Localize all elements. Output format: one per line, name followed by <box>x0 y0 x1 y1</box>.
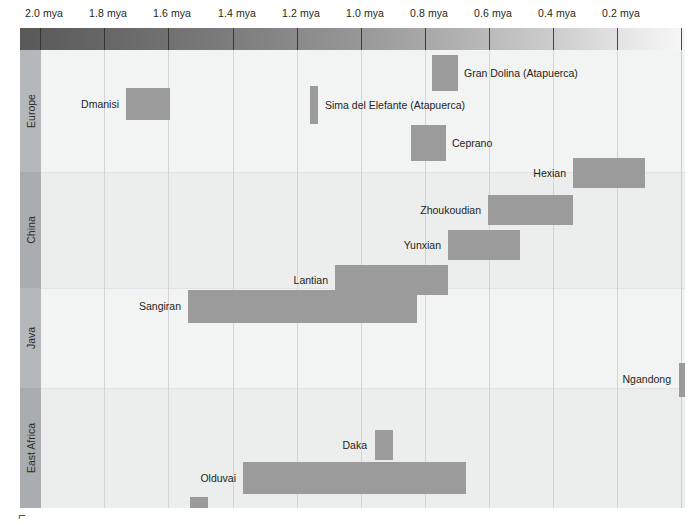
bar-label-lantian: Lantian <box>294 275 328 286</box>
gradient-tick-1-2 <box>297 28 298 50</box>
bar-gran-dolina[interactable] <box>432 55 458 91</box>
bar-sima-del-elefante[interactable] <box>310 86 318 124</box>
bar-label-dmanisi: Dmanisi <box>81 99 119 110</box>
bar-label-gran-dolina: Gran Dolina (Atapuerca) <box>464 68 578 79</box>
figure-corner-mark: ⌐ <box>18 508 58 522</box>
region-gutter-europe: Europe <box>20 50 41 172</box>
region-label-china: China <box>25 216 37 243</box>
bar-yunxian[interactable] <box>448 230 520 260</box>
gridline-0-6 <box>489 50 490 508</box>
gradient-tick-1-4 <box>233 28 234 50</box>
gradient-tick-1-0 <box>361 28 362 50</box>
bar-hexian[interactable] <box>573 158 645 188</box>
time-axis-labels: 2.0 mya 1.8 mya 1.6 mya 1.4 mya 1.2 mya … <box>0 0 696 28</box>
axis-tick-label-1-0: 1.0 mya <box>346 7 384 19</box>
gradient-tick-1-8 <box>104 28 105 50</box>
gradient-tick-0-6 <box>489 28 490 50</box>
timeline-figure: 2.0 mya 1.8 mya 1.6 mya 1.4 mya 1.2 mya … <box>0 0 696 524</box>
gridline-0-4 <box>553 50 554 508</box>
gradient-tick-0-4 <box>553 28 554 50</box>
bar-dmanisi[interactable] <box>126 88 170 120</box>
region-separator-3 <box>41 388 685 389</box>
bar-olduvai[interactable] <box>243 462 466 494</box>
gradient-tick-0-0 <box>681 28 682 50</box>
gridline-1-8 <box>104 50 105 508</box>
region-label-gutter: Europe China Java East Africa <box>20 50 41 508</box>
bar-ngandong[interactable] <box>679 363 685 397</box>
bar-label-hexian: Hexian <box>533 168 566 179</box>
axis-tick-label-1-6: 1.6 mya <box>153 7 191 19</box>
bar-nariokotome[interactable] <box>190 497 208 508</box>
region-label-europe: Europe <box>25 94 37 128</box>
bar-label-zhoukoudian: Zhoukoudian <box>420 205 481 216</box>
axis-tick-label-0-4: 0.4 mya <box>538 7 576 19</box>
bar-label-sangiran: Sangiran <box>139 301 181 312</box>
region-gutter-east-africa: East Africa <box>20 388 41 508</box>
gradient-tick-1-6 <box>168 28 169 50</box>
gradient-tick-0-2 <box>617 28 618 50</box>
region-label-east-africa: East Africa <box>25 423 37 473</box>
plot-area: Europe China Java East Africa Gran Dolin… <box>20 50 685 508</box>
region-gutter-china: China <box>20 172 41 288</box>
gridline-0-0 <box>681 50 682 508</box>
bar-sangiran[interactable] <box>188 290 417 323</box>
bar-zhoukoudian[interactable] <box>488 195 573 225</box>
bar-label-yunxian: Yunxian <box>404 240 441 251</box>
bar-daka[interactable] <box>375 430 393 460</box>
region-gutter-java: Java <box>20 288 41 388</box>
bar-label-ceprano: Ceprano <box>452 138 492 149</box>
bar-label-olduvai: Olduvai <box>200 473 236 484</box>
bar-label-ngandong: Ngandong <box>623 374 671 385</box>
gridline-1-4 <box>233 50 234 508</box>
axis-tick-label-0-2: 0.2 mya <box>602 7 640 19</box>
gradient-tick-2-0 <box>40 28 41 50</box>
bar-label-sima-del-elefante: Sima del Elefante (Atapuerca) <box>325 100 465 111</box>
axis-tick-label-0-8: 0.8 mya <box>410 7 448 19</box>
bar-label-daka: Daka <box>342 440 367 451</box>
region-label-java: Java <box>25 327 37 349</box>
gradient-tick-0-8 <box>425 28 426 50</box>
axis-tick-label-1-8: 1.8 mya <box>89 7 127 19</box>
axis-tick-label-1-2: 1.2 mya <box>282 7 320 19</box>
gridline-0-2 <box>617 50 618 508</box>
axis-tick-label-2-0: 2.0 mya <box>25 7 63 19</box>
axis-tick-label-1-4: 1.4 mya <box>218 7 256 19</box>
bar-ceprano[interactable] <box>411 125 446 161</box>
axis-tick-label-0-6: 0.6 mya <box>474 7 512 19</box>
region-band-europe <box>20 50 685 172</box>
time-gradient-bar <box>20 28 685 50</box>
